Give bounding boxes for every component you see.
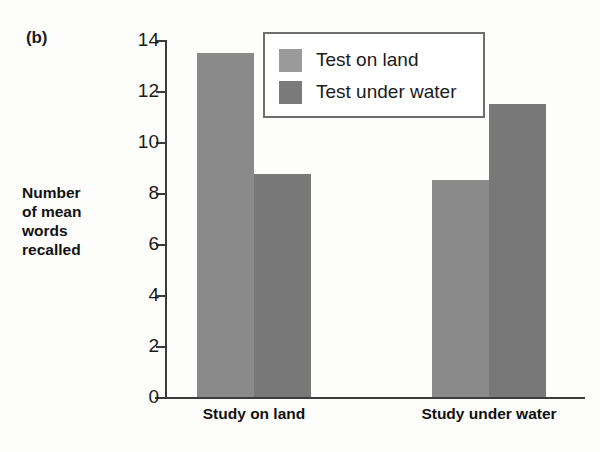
panel-label: (b): [26, 28, 47, 48]
chart-legend: Test on land Test under water: [263, 32, 485, 118]
y-axis-title-line-4: recalled: [22, 240, 142, 259]
legend-label-test-on-land: Test on land: [316, 49, 418, 71]
bar-study-on-land-test-under-water: [254, 174, 311, 397]
legend-label-test-under-water: Test under water: [316, 81, 456, 103]
legend-item-test-under-water: Test under water: [279, 76, 483, 108]
x-category-label-study-under-water: Study under water: [421, 405, 556, 423]
y-axis-title-line-2: of mean: [22, 202, 142, 221]
x-axis-line: [155, 397, 585, 399]
y-tick-label: 8: [148, 182, 159, 204]
legend-item-test-on-land: Test on land: [279, 44, 483, 76]
y-tick-label: 12: [138, 80, 159, 102]
y-tick-label: 14: [138, 29, 159, 51]
legend-swatch-test-on-land: [279, 49, 302, 72]
bar-study-on-land-test-on-land: [197, 53, 254, 397]
y-axis-title-line-3: words: [22, 221, 142, 240]
y-tick-label: 10: [138, 131, 159, 153]
legend-swatch-test-under-water: [279, 81, 302, 104]
figure-panel-b: (b) Number of mean words recalled 024681…: [0, 0, 600, 452]
y-tick-label: 2: [148, 335, 159, 357]
y-axis-line: [165, 40, 167, 397]
y-tick-label: 6: [148, 233, 159, 255]
y-axis-title-line-1: Number: [22, 183, 142, 202]
y-axis-title: Number of mean words recalled: [22, 183, 142, 259]
x-category-label-study-on-land: Study on land: [203, 405, 305, 423]
y-tick-label: 4: [148, 284, 159, 306]
y-tick-label: 0: [148, 386, 159, 408]
bar-study-under-water-test-under-water: [489, 104, 546, 397]
bar-study-under-water-test-on-land: [432, 180, 489, 397]
